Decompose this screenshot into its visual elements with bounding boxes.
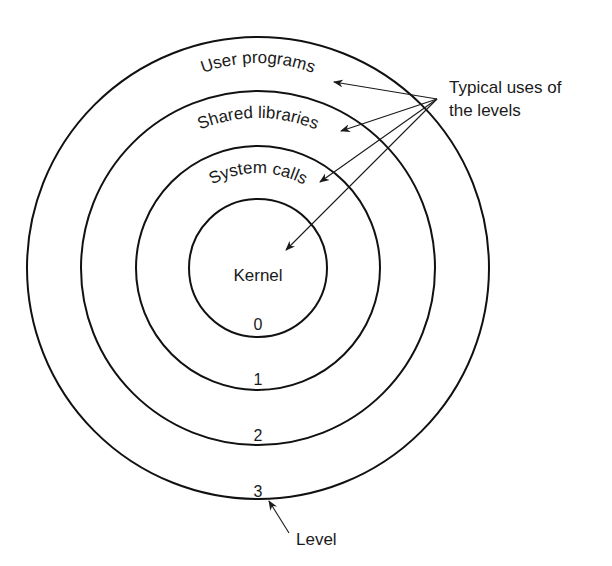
level-number-2: 2 [254,427,263,444]
arrow-to-shared-libraries [341,99,437,131]
ring-use-label-user-programs: User programs [198,48,318,77]
arrow-to-user-programs [334,82,437,99]
level-number-3: 3 [254,483,263,500]
callout-text-line2: the levels [449,101,521,120]
protection-rings-diagram: User programs Shared libraries System ca… [0,0,612,566]
ring-use-label-system-calls: System calls [206,158,311,188]
callout-arrows [286,82,437,250]
arrow-to-system-calls [320,99,437,182]
ring-use-label-shared-libraries: Shared libraries [195,103,322,133]
arrow-to-level [269,501,289,533]
level-number-1: 1 [254,371,263,388]
callout-text-line1: Typical uses of [449,78,562,97]
level-label: Level [296,530,337,549]
ring-use-label-kernel: Kernel [233,266,282,285]
level-number-0: 0 [254,316,263,333]
